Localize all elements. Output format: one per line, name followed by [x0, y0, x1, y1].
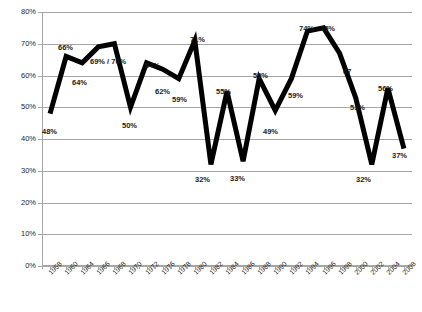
x-tick-minor — [58, 266, 59, 269]
label-1984: 55% — [216, 88, 231, 96]
y-tick-label: 60% — [2, 72, 36, 80]
label-1992: 59% — [288, 92, 303, 100]
x-tick-minor — [315, 266, 316, 269]
label-1976: 62% — [155, 88, 170, 96]
label-1980: 71% — [190, 36, 205, 44]
x-tick-minor — [74, 266, 75, 269]
x-tick-minor — [155, 266, 156, 269]
turnout-series — [42, 12, 412, 266]
turnout-line-chart: 0%10%20%30%40%50%60%70%80% 1958196019641… — [0, 0, 422, 312]
x-tick-minor — [412, 266, 413, 269]
x-tick-minor — [42, 266, 43, 269]
series-polyline — [50, 28, 404, 165]
y-tick-label: 20% — [2, 199, 36, 207]
x-tick-minor — [187, 266, 188, 269]
x-tick-minor — [348, 266, 349, 269]
x-tick-minor — [219, 266, 220, 269]
x-tick-minor — [122, 266, 123, 269]
y-tick-label: 50% — [2, 103, 36, 111]
label-1958: 48% — [42, 128, 57, 136]
label-2004: 56% — [378, 85, 393, 93]
x-tick-minor — [106, 266, 107, 269]
x-tick-minor — [380, 266, 381, 269]
label-1960: 66% — [58, 44, 73, 52]
label-1998: 67 — [343, 68, 351, 76]
y-tick-label: 70% — [2, 40, 36, 48]
label-2000: 53% — [350, 104, 365, 112]
label-1990: 49% — [263, 128, 278, 136]
label-1994: 74% — [299, 25, 314, 33]
label-1986: 33% — [230, 175, 245, 183]
y-tick-label: 40% — [2, 135, 36, 143]
x-tick-minor — [299, 266, 300, 269]
label-1982: 32% — [195, 176, 210, 184]
label-2002: 32% — [356, 176, 371, 184]
x-tick-minor — [171, 266, 172, 269]
label-2008: 37% — [392, 152, 407, 160]
x-tick-minor — [283, 266, 284, 269]
x-tick-minor — [364, 266, 365, 269]
x-tick-minor — [235, 266, 236, 269]
x-tick-minor — [90, 266, 91, 269]
x-tick-minor — [267, 266, 268, 269]
label-1964: 64% — [72, 79, 87, 87]
y-tick-label: 80% — [2, 8, 36, 16]
x-tick-minor — [251, 266, 252, 269]
label-1966: 69% / 70% — [90, 58, 126, 66]
label-1972: 64% — [145, 62, 160, 70]
y-tick-label: 30% — [2, 167, 36, 175]
label-1996: 75% — [320, 25, 335, 33]
label-1970: 50% — [122, 122, 137, 130]
label-1978: 59% — [172, 96, 187, 104]
y-tick-label: 0% — [2, 262, 36, 270]
x-tick-minor — [332, 266, 333, 269]
label-1988: 59% — [253, 72, 268, 80]
x-tick-minor — [203, 266, 204, 269]
x-tick-minor — [139, 266, 140, 269]
x-tick-minor — [396, 266, 397, 269]
y-tick-label: 10% — [2, 230, 36, 238]
